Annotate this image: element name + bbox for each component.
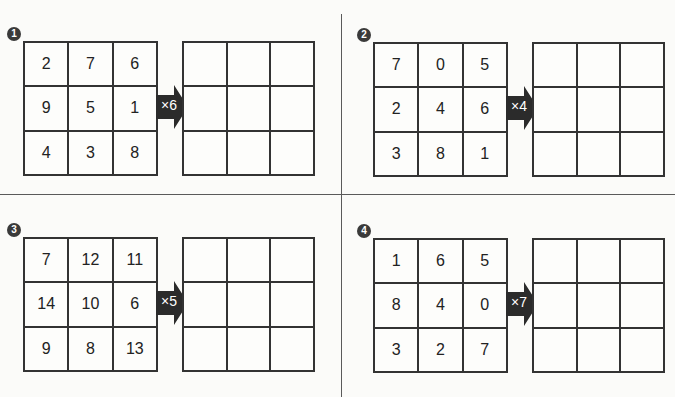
answer-grid bbox=[182, 237, 315, 372]
answer-cell[interactable] bbox=[183, 238, 227, 282]
answer-cell[interactable] bbox=[620, 283, 664, 327]
input-cell: 2 bbox=[374, 87, 418, 131]
input-cell: 5 bbox=[463, 43, 507, 87]
answer-cell[interactable] bbox=[227, 131, 271, 175]
answer-cell[interactable] bbox=[227, 238, 271, 282]
answer-cell[interactable] bbox=[533, 87, 577, 131]
input-cell: 8 bbox=[418, 132, 462, 176]
answer-cell[interactable] bbox=[183, 327, 227, 371]
input-cell: 14 bbox=[24, 282, 68, 326]
input-cell: 4 bbox=[24, 131, 68, 175]
input-cell: 6 bbox=[418, 239, 462, 283]
input-cell: 12 bbox=[68, 238, 112, 282]
input-cell: 3 bbox=[68, 131, 112, 175]
input-cell: 5 bbox=[68, 86, 112, 130]
answer-cell[interactable] bbox=[620, 328, 664, 372]
answer-cell[interactable] bbox=[183, 282, 227, 326]
input-grid: 7 0 5 2 4 6 3 8 1 bbox=[373, 42, 508, 177]
input-cell: 0 bbox=[463, 283, 507, 327]
exercise-number-badge: 3 bbox=[7, 223, 21, 237]
input-cell: 6 bbox=[463, 87, 507, 131]
input-grid: 1 6 5 8 4 0 3 2 7 bbox=[373, 238, 508, 373]
input-grid: 2 7 6 9 5 1 4 3 8 bbox=[23, 41, 158, 176]
answer-cell[interactable] bbox=[227, 282, 271, 326]
input-cell: 8 bbox=[68, 327, 112, 371]
answer-cell[interactable] bbox=[620, 43, 664, 87]
answer-grid bbox=[532, 42, 665, 177]
exercise-number-badge: 1 bbox=[7, 27, 21, 41]
input-cell: 5 bbox=[463, 239, 507, 283]
input-cell: 7 bbox=[24, 238, 68, 282]
answer-cell[interactable] bbox=[577, 328, 621, 372]
answer-cell[interactable] bbox=[533, 239, 577, 283]
answer-cell[interactable] bbox=[270, 42, 314, 86]
answer-cell[interactable] bbox=[533, 43, 577, 87]
exercise-3: 3 7 12 11 14 10 6 9 8 13 ×5 bbox=[7, 223, 337, 397]
input-cell: 6 bbox=[113, 42, 157, 86]
answer-cell[interactable] bbox=[270, 131, 314, 175]
answer-grid bbox=[532, 238, 665, 373]
input-cell: 9 bbox=[24, 327, 68, 371]
input-cell: 8 bbox=[374, 283, 418, 327]
answer-cell[interactable] bbox=[577, 43, 621, 87]
input-cell: 2 bbox=[24, 42, 68, 86]
answer-cell[interactable] bbox=[533, 132, 577, 176]
multiplier-label: ×5 bbox=[158, 293, 180, 309]
input-cell: 11 bbox=[113, 238, 157, 282]
multiplier-label: ×4 bbox=[508, 98, 530, 114]
answer-cell[interactable] bbox=[577, 283, 621, 327]
multiplier-label: ×7 bbox=[508, 294, 530, 310]
input-cell: 1 bbox=[463, 132, 507, 176]
input-cell: 2 bbox=[418, 328, 462, 372]
answer-cell[interactable] bbox=[227, 86, 271, 130]
input-cell: 13 bbox=[113, 327, 157, 371]
answer-cell[interactable] bbox=[533, 283, 577, 327]
input-grid: 7 12 11 14 10 6 9 8 13 bbox=[23, 237, 158, 372]
divider-vertical bbox=[341, 14, 342, 397]
input-cell: 10 bbox=[68, 282, 112, 326]
answer-cell[interactable] bbox=[577, 239, 621, 283]
input-cell: 7 bbox=[374, 43, 418, 87]
answer-cell[interactable] bbox=[270, 282, 314, 326]
input-cell: 7 bbox=[68, 42, 112, 86]
answer-cell[interactable] bbox=[183, 86, 227, 130]
input-cell: 4 bbox=[418, 283, 462, 327]
input-cell: 8 bbox=[113, 131, 157, 175]
answer-cell[interactable] bbox=[620, 132, 664, 176]
input-cell: 0 bbox=[418, 43, 462, 87]
answer-cell[interactable] bbox=[577, 132, 621, 176]
input-cell: 7 bbox=[463, 328, 507, 372]
answer-cell[interactable] bbox=[227, 327, 271, 371]
exercise-number-badge: 2 bbox=[357, 28, 371, 42]
input-cell: 3 bbox=[374, 328, 418, 372]
answer-cell[interactable] bbox=[227, 42, 271, 86]
input-cell: 4 bbox=[418, 87, 462, 131]
input-cell: 1 bbox=[113, 86, 157, 130]
input-cell: 9 bbox=[24, 86, 68, 130]
answer-cell[interactable] bbox=[270, 238, 314, 282]
answer-cell[interactable] bbox=[533, 328, 577, 372]
answer-cell[interactable] bbox=[620, 87, 664, 131]
answer-grid bbox=[182, 41, 315, 176]
answer-cell[interactable] bbox=[577, 87, 621, 131]
answer-cell[interactable] bbox=[183, 131, 227, 175]
exercise-number-badge: 4 bbox=[357, 224, 371, 238]
answer-cell[interactable] bbox=[270, 86, 314, 130]
answer-cell[interactable] bbox=[183, 42, 227, 86]
input-cell: 6 bbox=[113, 282, 157, 326]
answer-cell[interactable] bbox=[620, 239, 664, 283]
exercise-1: 1 2 7 6 9 5 1 4 3 8 ×6 bbox=[7, 27, 337, 207]
exercise-2: 2 7 0 5 2 4 6 3 8 1 ×4 bbox=[357, 28, 675, 208]
input-cell: 1 bbox=[374, 239, 418, 283]
input-cell: 3 bbox=[374, 132, 418, 176]
exercise-4: 4 1 6 5 8 4 0 3 2 7 ×7 bbox=[357, 224, 675, 397]
answer-cell[interactable] bbox=[270, 327, 314, 371]
multiplier-label: ×6 bbox=[158, 97, 180, 113]
